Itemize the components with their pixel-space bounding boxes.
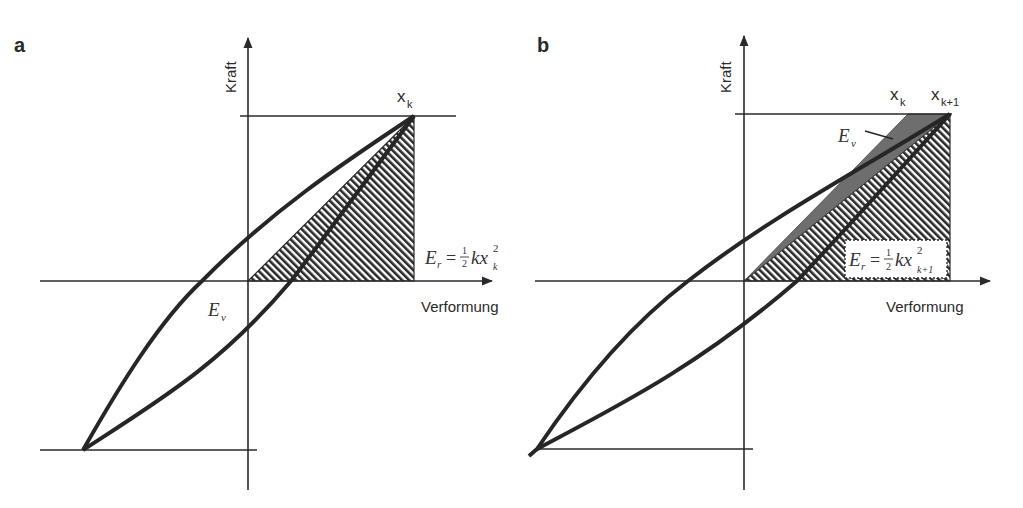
- hysteresis-figure: a Kraft Verformung x k E v E r = 1 2 k: [0, 0, 1023, 508]
- svg-text:2: 2: [493, 242, 499, 254]
- svg-text:x: x: [890, 85, 899, 104]
- svg-text:k+1: k+1: [941, 96, 959, 108]
- y-axis-label: Kraft: [222, 60, 239, 93]
- svg-text:x: x: [931, 85, 940, 104]
- svg-text:k: k: [900, 96, 906, 108]
- svg-text:2: 2: [886, 261, 891, 272]
- svg-text:v: v: [221, 311, 226, 323]
- svg-text:kx: kx: [471, 247, 488, 268]
- svg-text:=: =: [870, 250, 880, 270]
- svg-text:2: 2: [917, 244, 923, 256]
- panel-b: b Kraft Verformung x k x k+1 E v: [529, 34, 990, 490]
- x-axis-label: Verformung: [421, 298, 499, 315]
- svg-text:E: E: [848, 249, 861, 270]
- panel-label-a: a: [14, 34, 26, 56]
- svg-text:k: k: [493, 261, 498, 272]
- peak-label-xk: x k: [890, 85, 906, 108]
- peak-label-xk: x k: [397, 87, 413, 110]
- svg-text:E: E: [424, 247, 437, 268]
- panel-a: a Kraft Verformung x k E v E r = 1 2 k: [14, 34, 499, 490]
- svg-text:1: 1: [462, 245, 467, 256]
- energy-loss-label: E v: [207, 299, 226, 323]
- svg-text:k: k: [407, 98, 413, 110]
- svg-text:E: E: [207, 299, 220, 320]
- x-axis-label: Verformung: [886, 298, 964, 315]
- svg-text:k+1: k+1: [917, 264, 933, 275]
- svg-text:2: 2: [462, 258, 467, 269]
- svg-text:x: x: [397, 87, 406, 106]
- svg-text:E: E: [837, 125, 850, 146]
- y-axis-label: Kraft: [717, 60, 734, 93]
- panel-label-b: b: [537, 34, 549, 56]
- svg-text:kx: kx: [895, 249, 912, 270]
- svg-text:r: r: [861, 260, 866, 272]
- svg-text:v: v: [851, 137, 856, 149]
- svg-text:r: r: [437, 258, 442, 270]
- svg-text:=: =: [446, 248, 456, 268]
- energy-return-formula: E r = 1 2 kx 2 k: [424, 242, 499, 272]
- returned-energy-area: [248, 116, 414, 281]
- svg-text:1: 1: [886, 247, 891, 258]
- peak-label-xk1: x k+1: [931, 85, 959, 108]
